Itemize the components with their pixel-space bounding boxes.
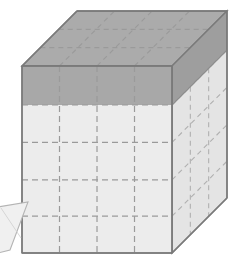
- cuboid-diagram: [0, 0, 235, 262]
- front-face-group: [22, 66, 172, 253]
- figure-root: A 3D rectangular block drawn in oblique …: [0, 0, 235, 262]
